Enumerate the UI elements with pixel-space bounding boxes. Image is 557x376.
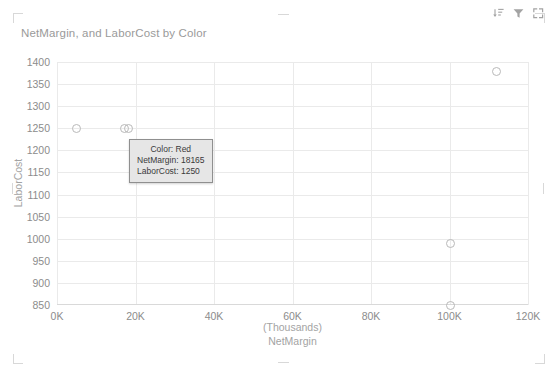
tooltip-row-color: Color: Red [137,144,205,155]
tooltip-row-laborcost: LaborCost: 1250 [137,166,205,177]
x-axis-field-label: NetMargin [57,334,528,348]
data-point-tooltip: Color: Red NetMargin: 18165 LaborCost: 1… [129,139,213,183]
y-axis-tick-label: 950 [32,255,50,267]
resize-handle-bottom-left[interactable] [13,354,23,364]
resize-handle-top-center[interactable] [278,14,289,15]
visual-header-toolbar [492,5,545,21]
gridline-vertical [528,62,529,305]
y-axis-tick-label: 1150 [27,166,50,178]
tooltip-row-netmargin: NetMargin: 18165 [137,155,205,166]
focus-mode-icon[interactable] [532,7,545,20]
x-axis-line [57,304,528,305]
x-axis-unit-label: (Thousands) [57,320,528,334]
gridline-vertical [214,62,215,305]
y-axis-tick-label: 1400 [27,56,50,68]
chart-title: NetMargin, and LaborCost by Color [21,27,207,39]
drill-down-icon[interactable] [492,7,505,20]
scatter-point[interactable] [446,239,455,248]
gridline-vertical [57,62,58,305]
plot-frame: 8509009501000105011001150120012501300135… [57,62,528,305]
plot-area[interactable] [57,62,528,305]
power-bi-visual-container: NetMargin, and LaborCost by Color LaborC… [0,0,557,376]
y-axis-tick-label: 1000 [27,233,50,245]
y-axis-tick-label: 1300 [27,100,50,112]
y-axis-tick-label: 1200 [27,144,50,156]
y-axis-tick-label: 1350 [27,78,50,90]
gridline-vertical [293,62,294,305]
gridline-vertical [136,62,137,305]
y-axis-tick-label: 850 [32,299,50,311]
x-axis-title: (Thousands) NetMargin [57,320,528,348]
scatter-point[interactable] [492,67,501,76]
y-axis-tick-label: 1050 [27,211,50,223]
y-axis-tick-label: 1250 [27,122,50,134]
scatter-point[interactable] [72,124,81,133]
filter-icon[interactable] [512,7,525,20]
resize-handle-top-left[interactable] [13,13,23,23]
gridline-vertical [450,62,451,305]
resize-handle-right-middle[interactable] [543,183,544,194]
gridline-vertical [371,62,372,305]
y-axis-title: LaborCost [12,159,24,207]
scatter-point[interactable] [124,124,133,133]
resize-handle-bottom-right[interactable] [535,354,545,364]
resize-handle-bottom-center[interactable] [278,362,289,363]
y-axis-tick-label: 900 [32,277,50,289]
y-axis-tick-label: 1100 [27,189,50,201]
